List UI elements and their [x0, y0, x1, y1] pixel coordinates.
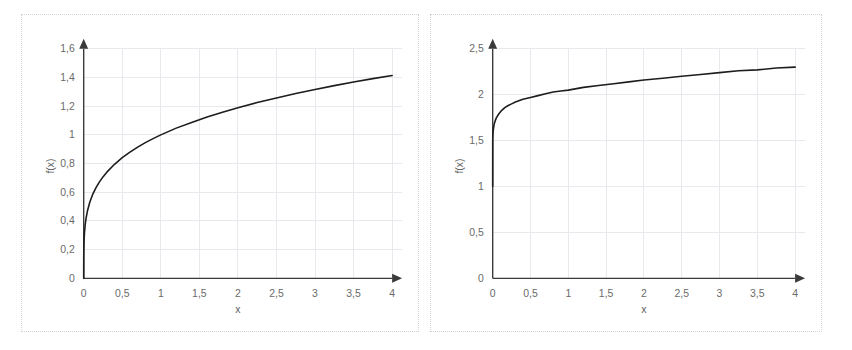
chart-right-grid — [493, 49, 805, 279]
y-tick-label: 0,6 — [60, 187, 75, 198]
x-tick-label: 0,5 — [115, 288, 130, 299]
y-tick-label: 2,5 — [469, 43, 484, 54]
chart-left-y-ticks: 00,20,40,60,811,21,41,6 — [60, 43, 75, 284]
x-tick-label: 1,5 — [192, 288, 207, 299]
chart-right-y-axis-title: f(x) — [454, 159, 465, 174]
y-tick-label: 2 — [478, 89, 484, 100]
x-axis-arrow-icon — [392, 274, 402, 283]
chart-panel-right: 00,511,522,5 00,511,522,533,54 x f(x) — [430, 14, 822, 332]
y-tick-label: 1,5 — [469, 135, 484, 146]
chart-right-x-ticks: 00,511,522,533,54 — [490, 288, 798, 299]
x-tick-label: 3 — [312, 288, 318, 299]
x-tick-label: 3,5 — [750, 288, 765, 299]
y-tick-label: 1,6 — [60, 43, 75, 54]
x-tick-label: 1 — [158, 288, 164, 299]
y-tick-label: 0,5 — [469, 227, 484, 238]
chart-right-x-axis-title: x — [641, 304, 647, 315]
y-tick-label: 1 — [478, 181, 484, 192]
y-tick-label: 0,2 — [60, 244, 75, 255]
chart-left-x-axis-title: x — [235, 304, 241, 315]
y-tick-label: 0 — [69, 273, 75, 284]
chart-panel-left: 00,20,40,60,811,21,41,6 00,511,522,533,5… — [21, 14, 419, 332]
x-tick-label: 0 — [81, 288, 87, 299]
x-tick-label: 0,5 — [523, 288, 538, 299]
chart-right-svg: 00,511,522,5 00,511,522,533,54 x f(x) — [431, 15, 821, 331]
chart-left-grid — [84, 49, 402, 279]
x-tick-label: 3 — [717, 288, 723, 299]
chart-left-svg: 00,20,40,60,811,21,41,6 00,511,522,533,5… — [22, 15, 418, 331]
y-tick-label: 1 — [69, 129, 75, 140]
y-tick-label: 1,4 — [60, 72, 75, 83]
y-tick-label: 0 — [478, 273, 484, 284]
x-tick-label: 2 — [641, 288, 647, 299]
x-tick-label: 4 — [389, 288, 395, 299]
chart-left-x-ticks: 00,511,522,533,54 — [81, 288, 395, 299]
x-tick-label: 2 — [235, 288, 241, 299]
y-tick-label: 0,4 — [60, 215, 75, 226]
y-axis-arrow-icon — [488, 39, 497, 49]
x-tick-label: 2,5 — [674, 288, 689, 299]
chart-right-y-ticks: 00,511,522,5 — [469, 43, 484, 284]
x-tick-label: 4 — [792, 288, 798, 299]
x-axis-arrow-icon — [795, 274, 805, 283]
y-axis-arrow-icon — [79, 39, 88, 49]
figure-row: 00,20,40,60,811,21,41,6 00,511,522,533,5… — [0, 0, 852, 350]
x-tick-label: 2,5 — [269, 288, 284, 299]
x-tick-label: 1 — [565, 288, 571, 299]
x-tick-label: 3,5 — [346, 288, 361, 299]
chart-left-y-axis-title: f(x) — [45, 159, 56, 174]
y-tick-label: 0,8 — [60, 158, 75, 169]
x-tick-label: 1,5 — [599, 288, 614, 299]
y-tick-label: 1,2 — [60, 101, 75, 112]
x-tick-label: 0 — [490, 288, 496, 299]
